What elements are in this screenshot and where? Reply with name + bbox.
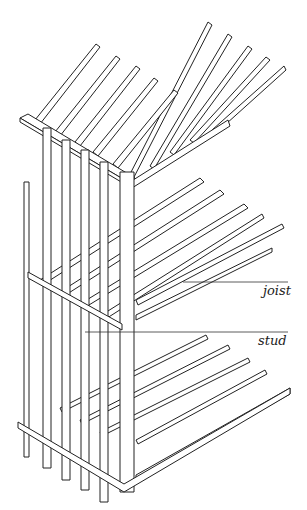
rafters	[35, 44, 178, 168]
studs	[24, 128, 134, 502]
stud-label: stud	[258, 333, 287, 348]
sill-plate	[18, 388, 290, 492]
upper-joists	[128, 22, 286, 188]
framing-diagram	[0, 0, 307, 510]
joist-label: joist	[263, 283, 291, 298]
